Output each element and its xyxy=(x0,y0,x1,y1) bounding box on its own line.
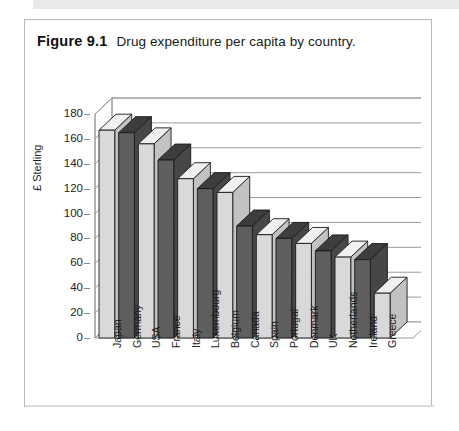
bar-front-face xyxy=(158,160,174,338)
chart-graphic xyxy=(37,73,421,403)
page-top-band xyxy=(33,0,459,9)
y-axis-tick-mark xyxy=(84,189,90,190)
x-axis-tick: Belgium xyxy=(229,310,241,348)
x-axis-tick: Luxembourg xyxy=(209,290,221,348)
y-axis-tick-mark xyxy=(84,139,90,140)
y-axis-tick-mark xyxy=(84,114,90,115)
figure-caption: Figure 9.1Drug expenditure per capita by… xyxy=(37,32,356,50)
x-axis-tick: Spain xyxy=(268,321,280,348)
figure-box-shadow xyxy=(26,405,434,407)
x-axis-tick: Japan xyxy=(111,319,123,348)
y-axis-tick-mark xyxy=(84,313,90,314)
x-axis-tick: UK xyxy=(327,333,339,348)
figure-container: Figure 9.1Drug expenditure per capita by… xyxy=(24,19,432,407)
y-axis-tick-mark xyxy=(84,214,90,215)
figure-number: Figure 9.1 xyxy=(37,33,108,49)
x-axis-tick: Canada xyxy=(249,311,261,348)
y-axis-tick-mark xyxy=(84,263,90,264)
x-axis-tick: Italy xyxy=(190,329,202,348)
x-axis-tick: Netherlands xyxy=(347,291,359,348)
bar-front-face xyxy=(99,130,115,338)
y-axis-tick-mark xyxy=(84,238,90,239)
figure-title: Drug expenditure per capita by country. xyxy=(117,34,356,49)
x-axis-tick: Ireland xyxy=(367,316,379,348)
y-axis-tick-mark xyxy=(84,338,90,339)
chart-plot-area: £ Sterling 180160140120100806040200 Japa… xyxy=(37,73,421,403)
y-axis-tick-mark xyxy=(84,288,90,289)
x-axis-tick: Portugal xyxy=(288,309,300,348)
x-axis-tick: France xyxy=(170,315,182,348)
x-axis-tick: Germany xyxy=(131,305,143,348)
x-axis-tick: Denmark xyxy=(308,305,320,348)
x-axis-tick: USA xyxy=(150,326,162,348)
chart-axis-connector xyxy=(95,98,112,114)
x-axis-tick: Greece xyxy=(386,314,398,348)
y-axis-tick-mark xyxy=(84,164,90,165)
